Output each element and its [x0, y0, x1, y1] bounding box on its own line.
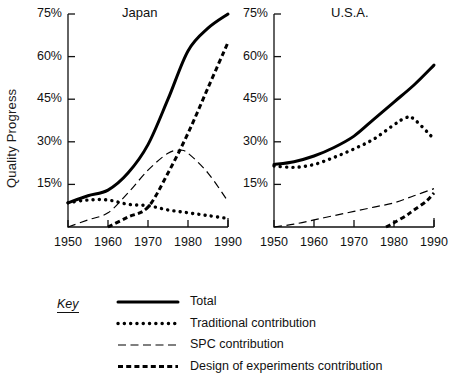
series-line	[68, 14, 228, 203]
series-line	[108, 42, 228, 227]
legend-label: SPC contribution	[190, 337, 284, 351]
y-tick-label: 30%	[22, 134, 62, 148]
y-tick-label: 60%	[22, 49, 62, 63]
x-tick-label: 1990	[409, 235, 459, 249]
y-tick-label: 30%	[228, 134, 268, 148]
y-tick-label: 45%	[228, 91, 268, 105]
legend-label: Traditional contribution	[190, 316, 316, 330]
y-tick-label: 60%	[228, 49, 268, 63]
y-tick-label: 75%	[228, 6, 268, 20]
y-tick-label: 15%	[228, 176, 268, 190]
series-line	[386, 193, 434, 227]
legend-label: Total	[190, 294, 216, 308]
y-tick-label: 45%	[22, 91, 62, 105]
legend-key-label: Key	[57, 297, 79, 313]
y-tick-label: 75%	[22, 6, 62, 20]
x-tick-label: 1990	[203, 235, 253, 249]
legend-label: Design of experiments contribution	[190, 359, 382, 373]
y-tick-label: 15%	[22, 176, 62, 190]
